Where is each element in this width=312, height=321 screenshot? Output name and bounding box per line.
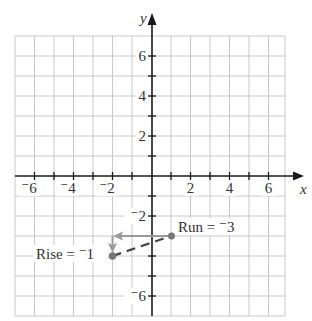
x-tick-label: ⁻2 <box>99 180 114 196</box>
y-tick-label: 6 <box>139 48 147 64</box>
x-axis-label: x <box>299 181 307 197</box>
x-tick-label: 6 <box>265 180 273 196</box>
y-axis-label: y <box>138 10 147 26</box>
y-tick-label: 4 <box>139 88 147 104</box>
y-axis-arrow-icon <box>148 13 157 25</box>
rise-label: Rise = ⁻1 <box>36 246 94 262</box>
point-start <box>168 233 175 240</box>
coordinate-plane: ⁻6 ⁻4 ⁻2 2 4 6 6 4 2 ⁻2 ⁻6 y x Run = ⁻3 … <box>0 0 312 321</box>
x-tick-label: 4 <box>226 180 234 196</box>
y-tick-label: ⁻2 <box>131 208 146 224</box>
axes <box>15 20 298 316</box>
y-tick-label: ⁻6 <box>131 288 147 304</box>
x-tick-label: ⁻6 <box>21 180 37 196</box>
y-tick-label: 2 <box>139 128 147 144</box>
rise-arrow <box>108 236 117 253</box>
x-tick-label: ⁻4 <box>60 180 76 196</box>
run-label: Run = ⁻3 <box>178 219 234 235</box>
point-end <box>109 252 117 260</box>
x-tick-label: 2 <box>187 180 195 196</box>
x-axis-arrow-icon <box>293 172 304 181</box>
